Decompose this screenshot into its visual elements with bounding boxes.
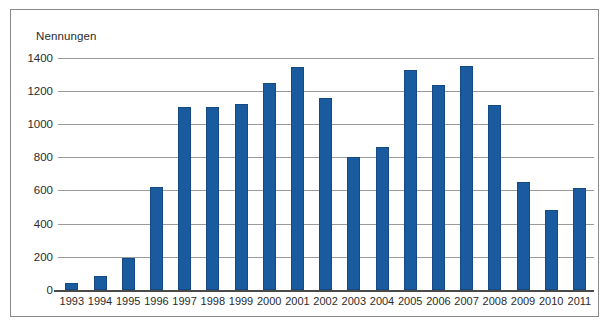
bar-2010 <box>545 210 558 290</box>
y-tick-label: 1400 <box>13 52 53 64</box>
bar-2001 <box>291 67 304 290</box>
bar-1995 <box>122 258 135 290</box>
bar-2004 <box>376 147 389 290</box>
bar-2009 <box>517 182 530 290</box>
bar-1999 <box>235 104 248 290</box>
bar-2002 <box>319 98 332 290</box>
bar-2011 <box>573 188 586 290</box>
bar-2007 <box>460 66 473 290</box>
x-axis-baseline <box>54 290 594 292</box>
x-tick-label-2000: 2000 <box>257 295 281 307</box>
bar-1996 <box>150 187 163 290</box>
bar-2008 <box>488 105 501 290</box>
x-tick-label-2005: 2005 <box>398 295 422 307</box>
x-tick-label-2010: 2010 <box>539 295 563 307</box>
x-tick-label-2004: 2004 <box>370 295 394 307</box>
bar-chart-figure: Nennungen 1400 1200 1000 800 600 400 200… <box>0 0 609 328</box>
x-axis-labels: 1993 1994 1995 1996 1997 1998 1999 2000 … <box>58 295 594 313</box>
bar-2005 <box>404 70 417 290</box>
bar-2003 <box>347 157 360 290</box>
y-tick-label: 0 <box>13 284 53 296</box>
bar-1993 <box>65 283 78 290</box>
bar-2006 <box>432 85 445 290</box>
y-tick-label: 600 <box>13 184 53 196</box>
x-tick-label-1999: 1999 <box>229 295 253 307</box>
x-tick-label-2009: 2009 <box>511 295 535 307</box>
x-tick-label-1993: 1993 <box>60 295 84 307</box>
y-tick-label: 1200 <box>13 85 53 97</box>
x-tick-label-2003: 2003 <box>342 295 366 307</box>
y-tick-label: 200 <box>13 251 53 263</box>
bar-series <box>58 50 594 290</box>
bar-1994 <box>94 276 107 290</box>
y-tick-label: 1000 <box>13 118 53 130</box>
x-tick-label-1997: 1997 <box>172 295 196 307</box>
x-tick-label-1994: 1994 <box>88 295 112 307</box>
x-tick-label-2011: 2011 <box>568 295 592 307</box>
x-tick-label-2008: 2008 <box>483 295 507 307</box>
x-tick-label-1998: 1998 <box>201 295 225 307</box>
bar-1998 <box>206 107 219 290</box>
chart-frame: Nennungen 1400 1200 1000 800 600 400 200… <box>10 9 599 317</box>
x-tick-label-2002: 2002 <box>313 295 337 307</box>
x-tick-label-2001: 2001 <box>285 295 309 307</box>
x-tick-label-1996: 1996 <box>144 295 168 307</box>
bar-1997 <box>178 107 191 290</box>
y-axis-ticks: 1400 1200 1000 800 600 400 200 0 <box>11 50 53 290</box>
y-tick-label: 400 <box>13 218 53 230</box>
y-tick-label: 800 <box>13 151 53 163</box>
x-tick-label-2007: 2007 <box>454 295 478 307</box>
x-tick-label-1995: 1995 <box>116 295 140 307</box>
bar-2000 <box>263 83 276 290</box>
y-axis-title: Nennungen <box>36 30 96 42</box>
x-tick-label-2006: 2006 <box>426 295 450 307</box>
